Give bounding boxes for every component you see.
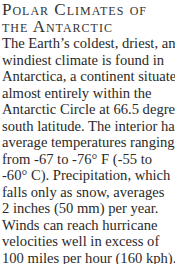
- article-title: Polar Climates of the Antarctic: [2, 2, 175, 35]
- body-line: windiest climate is found in: [2, 52, 175, 69]
- title-line: the Antarctic: [2, 19, 175, 36]
- body-line: The Earth’s coldest, driest, and: [2, 35, 175, 52]
- article: Polar Climates of the Antarctic The Eart…: [2, 2, 175, 264]
- body-line: Winds can reach hurricane: [2, 217, 175, 234]
- body-line: average temperatures ranging: [2, 134, 175, 151]
- article-body: The Earth’s coldest, driest, and windies…: [2, 35, 175, 264]
- body-line: -60° C). Precipitation, which: [2, 167, 175, 184]
- body-line: south latitude. The interior has: [2, 118, 175, 135]
- body-line: Antarctic Circle at 66.5 degrees: [2, 101, 175, 118]
- body-line: 100 miles per hour (160 kph).: [2, 250, 175, 264]
- body-line: falls only as snow, averages: [2, 184, 175, 201]
- body-line: almost entirely within the: [2, 85, 175, 102]
- body-line: from -67 to -76° F (-55 to: [2, 151, 175, 168]
- body-line: velocities well in excess of: [2, 233, 175, 250]
- body-line: 2 inches (50 mm) per year.: [2, 200, 175, 217]
- body-line: Antarctica, a continent situated: [2, 68, 175, 85]
